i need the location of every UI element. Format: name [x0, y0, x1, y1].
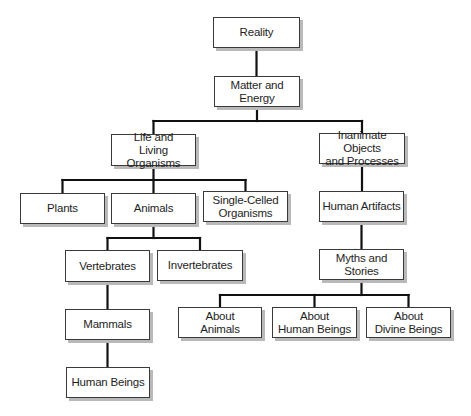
node-reality: Reality: [213, 17, 300, 48]
node-invertebrates: Invertebrates: [157, 250, 243, 281]
hierarchy-diagram: RealityMatter and EnergyLife and Living …: [0, 0, 471, 416]
node-artifacts: Human Artifacts: [319, 191, 404, 222]
node-inanimate: Inanimate Objects and Processes: [319, 133, 405, 164]
node-single: Single-Celled Organisms: [203, 191, 288, 222]
node-animals: Animals: [111, 193, 196, 224]
node-about-divine: About Divine Beings: [366, 307, 451, 338]
node-about-humans: About Human Beings: [272, 307, 357, 338]
node-myths: Myths and Stories: [319, 249, 404, 280]
node-about-animals: About Animals: [178, 307, 262, 338]
node-humans: Human Beings: [66, 367, 150, 398]
node-plants: Plants: [20, 193, 105, 224]
node-matter: Matter and Energy: [214, 76, 300, 107]
node-vertebrates: Vertebrates: [65, 250, 150, 282]
node-life: Life and Living Organisms: [111, 134, 196, 166]
node-mammals: Mammals: [65, 309, 150, 340]
